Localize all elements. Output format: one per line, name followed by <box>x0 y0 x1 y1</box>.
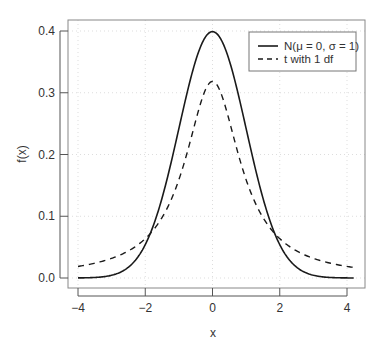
y-tick-label: 0.4 <box>38 24 55 38</box>
legend-label-normal: N(μ = 0, σ = 1) <box>284 40 359 52</box>
t-distribution-curve <box>78 81 354 267</box>
legend-label-t: t with 1 df <box>284 53 334 65</box>
y-tick-label: 0.2 <box>38 148 55 162</box>
chart: 0.00.10.20.30.4 −4−2024 x f(x) N(μ = 0, … <box>0 0 385 355</box>
x-tick-label: 2 <box>276 301 283 315</box>
x-axis: −4−2024 <box>71 288 351 315</box>
y-axis: 0.00.10.20.30.4 <box>38 24 68 285</box>
x-tick-label: 4 <box>344 301 351 315</box>
y-tick-label: 0.1 <box>38 209 55 223</box>
y-tick-label: 0.3 <box>38 86 55 100</box>
y-axis-label: f(x) <box>15 145 29 162</box>
legend: N(μ = 0, σ = 1) t with 1 df <box>249 32 359 71</box>
x-tick-label: 0 <box>209 301 216 315</box>
x-tick-label: −2 <box>138 301 152 315</box>
x-tick-label: −4 <box>71 301 85 315</box>
x-axis-label: x <box>210 326 216 340</box>
y-tick-label: 0.0 <box>38 271 55 285</box>
